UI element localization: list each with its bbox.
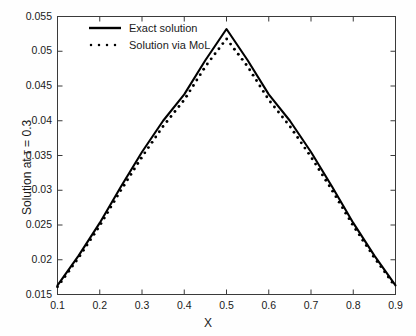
y-tick-label: 0.05 (8, 44, 52, 56)
y-tick-label: 0.02 (8, 253, 52, 265)
legend-item-solution-via-mol: Solution via MoL (88, 36, 258, 53)
axis-ticks (58, 17, 396, 295)
legend-item-exact-solution: Exact solution (88, 19, 258, 36)
x-tick-label: 0.3 (122, 299, 162, 311)
legend-swatch-dotted (88, 39, 122, 51)
chart-legend: Exact solution Solution via MoL (88, 19, 258, 53)
x-tick-label: 0.5 (207, 299, 247, 311)
x-tick-label: 0.9 (376, 299, 416, 311)
legend-swatch-solid (88, 22, 122, 34)
series-line-exact-solution (58, 29, 396, 285)
series-line-solution-via-mol (56, 38, 394, 289)
y-tick-label: 0.055 (8, 10, 52, 22)
x-tick-label: 0.6 (249, 299, 289, 311)
x-tick-label: 0.1 (38, 299, 78, 311)
x-tick-label: 0.8 (333, 299, 373, 311)
x-tick-label: 0.7 (291, 299, 331, 311)
legend-label-exact-solution: Exact solution (129, 22, 197, 34)
chart-figure: 0.0150.020.0250.030.0350.040.0450.050.05… (0, 0, 416, 336)
x-axis-label: X (0, 316, 416, 330)
y-tick-label: 0.045 (8, 79, 52, 91)
x-tick-label: 0.2 (80, 299, 120, 311)
x-tick-label: 0.4 (164, 299, 204, 311)
legend-label-solution-via-mol: Solution via MoL (129, 39, 210, 51)
y-axis-label: Solution at τ = 0.3 (20, 120, 34, 215)
y-tick-label: 0.025 (8, 218, 52, 230)
